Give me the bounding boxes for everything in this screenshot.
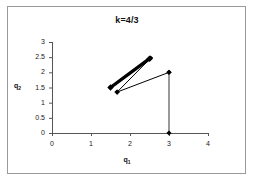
series-line — [117, 58, 151, 92]
data-series-layer — [107, 55, 171, 135]
chart-container: k=4/3 00.511.522.53 01234 q2 q1 — [0, 0, 254, 182]
y-tick-label: 1 — [19, 99, 45, 107]
y-tick-label: 2.5 — [19, 53, 45, 61]
series-vertical-drop — [166, 70, 171, 136]
x-tick-label: 0 — [43, 140, 61, 148]
series-line — [111, 59, 150, 88]
y-tick-label: 2 — [19, 68, 45, 76]
x-tick-label: 2 — [121, 140, 139, 148]
y-tick-label: 0 — [19, 129, 45, 137]
series-thin-segment-lower — [115, 70, 172, 95]
y-axis-title-subscript: 2 — [18, 85, 21, 91]
x-tick-label: 1 — [82, 140, 100, 148]
x-axis-title: q1 — [0, 156, 254, 165]
x-tick-label: 4 — [199, 140, 217, 148]
y-tick-label: 0.5 — [19, 114, 45, 122]
y-tick-label: 3 — [19, 38, 45, 46]
series-thin-segment-upper — [115, 55, 154, 94]
axis-lines — [52, 42, 208, 134]
x-tick-label: 3 — [160, 140, 178, 148]
y-tick-label: 1.5 — [19, 84, 45, 92]
data-point-marker — [166, 130, 171, 135]
series-thick-segment — [107, 55, 152, 90]
y-axis-title: q2 — [14, 82, 21, 92]
data-point-marker — [166, 70, 171, 75]
y-axis-ticks — [49, 43, 52, 134]
x-axis-title-subscript: 1 — [128, 159, 131, 165]
